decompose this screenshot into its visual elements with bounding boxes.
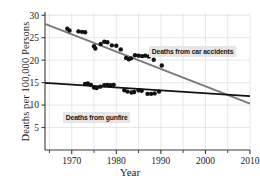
svg-text:30: 30 bbox=[30, 11, 40, 21]
svg-text:15: 15 bbox=[30, 78, 40, 88]
y-axis-title: Deaths per 100,000 Persons bbox=[20, 12, 31, 152]
svg-text:1990: 1990 bbox=[151, 156, 170, 166]
x-axis-title: Year bbox=[0, 166, 260, 178]
svg-text:5: 5 bbox=[34, 123, 39, 133]
svg-text:1980: 1980 bbox=[107, 156, 126, 166]
svg-text:2010: 2010 bbox=[241, 156, 260, 166]
axis-frame bbox=[45, 12, 250, 150]
gridlines bbox=[45, 13, 250, 150]
page-footer-smudge bbox=[6, 183, 254, 189]
svg-text:2000: 2000 bbox=[196, 156, 215, 166]
svg-text:20: 20 bbox=[30, 56, 40, 66]
svg-text:1970: 1970 bbox=[62, 156, 81, 166]
svg-text:10: 10 bbox=[30, 100, 40, 110]
annotation-gunfire: Deaths from gunfire bbox=[63, 112, 131, 123]
tick-labels: 5101520253019701980199020002010 bbox=[30, 11, 260, 166]
annotation-car-accidents: Deaths from car accidents bbox=[149, 46, 236, 57]
deaths-scatter-chart: 5101520253019701980199020002010 bbox=[0, 0, 260, 191]
svg-text:25: 25 bbox=[30, 33, 40, 43]
chart-figure: 5101520253019701980199020002010 Deaths p… bbox=[0, 0, 260, 191]
